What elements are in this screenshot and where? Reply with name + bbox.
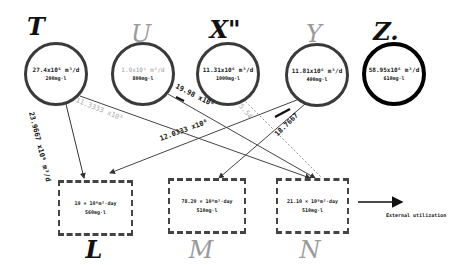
flow-line-y-to-m xyxy=(219,98,312,178)
source-concentration: 610mg·l xyxy=(383,74,404,82)
sink-title-n: N xyxy=(290,238,330,262)
source-node-u: 1.9x10⁶ m³/d 800mg·l xyxy=(111,42,175,106)
flow-line-t-to-l xyxy=(64,96,84,178)
source-node-y: 11.81x10⁶ m³/d 400mg·l xyxy=(285,43,349,107)
sink-title-m: M xyxy=(181,238,221,262)
sink-concentration: 510mg·l xyxy=(302,206,323,215)
source-concentration: 200mg·l xyxy=(45,74,66,82)
source-concentration: 1000mg·l xyxy=(216,74,240,82)
sink-rate: 21.10 × 10⁶m³·day xyxy=(287,197,338,206)
source-title-x: X" xyxy=(205,18,245,42)
source-rate: 27.4x10⁶ m³/d xyxy=(33,66,80,74)
flow-diagram: T U X" Y Z. 27.4x10⁶ m³/d 200mg·l 1.9x10… xyxy=(0,0,451,265)
source-concentration: 800mg·l xyxy=(132,74,153,82)
source-rate: 1.9x10⁶ m³/d xyxy=(121,66,164,74)
source-title-t: T xyxy=(16,15,56,39)
sink-node-m: 78.20 × 10⁶m³·day 510mg·l xyxy=(168,178,246,234)
source-node-z: 58.95x10⁶ m³/d 610mg·l xyxy=(362,42,426,106)
sink-rate: 19 × 10⁶m³·day xyxy=(74,199,116,208)
source-rate: 11.81x10⁶ m³/d xyxy=(292,67,343,75)
sink-title-l: L xyxy=(74,238,114,262)
sink-node-n: 21.10 × 10⁶m³·day 510mg·l xyxy=(276,178,349,234)
external-utilization-label: External utilization xyxy=(386,212,446,218)
sink-rate: 78.20 × 10⁶m³·day xyxy=(181,197,232,206)
source-rate: 58.95x10⁶ m³/d xyxy=(369,66,420,74)
sink-concentration: 560mg·l xyxy=(85,208,106,217)
source-rate: 11.31x10⁶ m³/d xyxy=(203,66,254,74)
sink-node-l: 19 × 10⁶m³·day 560mg·l xyxy=(58,180,133,236)
source-title-z: Z. xyxy=(366,20,406,44)
flow-line-x-to-n xyxy=(240,96,322,178)
source-concentration: 400mg·l xyxy=(306,75,327,83)
sink-concentration: 510mg·l xyxy=(196,206,217,215)
